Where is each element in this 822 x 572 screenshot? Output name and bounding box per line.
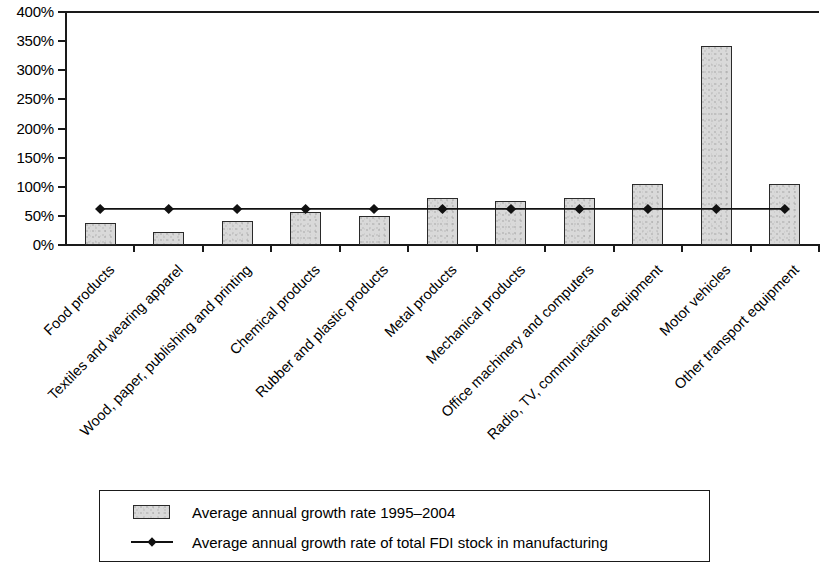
line-data-marker	[643, 204, 653, 214]
bar	[701, 46, 732, 245]
x-axis-tick-mark	[818, 244, 820, 252]
x-axis-category-label: Textiles and wearing apparel	[45, 262, 186, 403]
bar	[222, 221, 253, 245]
y-axis-tick-label: 50%	[0, 208, 54, 223]
fdi-growth-rate-chart: 0%50%100%150%200%250%300%350%400% Food p…	[0, 0, 822, 572]
bar	[564, 198, 595, 245]
y-axis-tick-label: 150%	[0, 150, 54, 165]
bar	[769, 184, 800, 245]
y-axis: 0%50%100%150%200%250%300%350%400%	[0, 0, 54, 250]
x-axis-tick-mark	[133, 244, 135, 252]
y-axis-tick-mark	[58, 157, 67, 159]
y-axis-tick-mark	[58, 186, 67, 188]
y-axis-tick-mark	[58, 98, 67, 100]
bar	[495, 201, 526, 245]
x-axis-tick-mark	[613, 244, 615, 252]
chart-legend: Average annual growth rate 1995–2004 Ave…	[99, 490, 710, 562]
line-marker-swatch-icon	[131, 535, 173, 549]
y-axis-tick-label: 200%	[0, 121, 54, 136]
line-data-marker	[780, 204, 790, 214]
y-axis-tick-label: 250%	[0, 91, 54, 106]
y-axis-tick-label: 400%	[0, 4, 54, 19]
y-axis-tick-label: 300%	[0, 62, 54, 77]
y-axis-tick-label: 100%	[0, 179, 54, 194]
line-data-marker	[232, 204, 242, 214]
bar	[290, 212, 321, 245]
x-axis-category-labels: Food productsTextiles and wearing appare…	[0, 250, 822, 390]
legend-item-bar-series: Average annual growth rate 1995–2004	[100, 499, 709, 525]
line-data-marker	[95, 204, 105, 214]
line-data-marker	[711, 204, 721, 214]
x-axis-tick-mark	[270, 244, 272, 252]
y-axis-tick-mark	[58, 128, 67, 130]
bar	[359, 216, 390, 245]
bar-swatch-icon	[133, 505, 170, 519]
x-axis-category-label: Other transport equipment	[672, 262, 802, 392]
bar	[427, 198, 458, 245]
y-axis-tick-label: 350%	[0, 33, 54, 48]
legend-label-bar-series: Average annual growth rate 1995–2004	[192, 504, 455, 521]
x-axis-tick-mark	[681, 244, 683, 252]
x-axis-category-label: Motor vehicles	[657, 262, 734, 339]
line-data-marker	[574, 204, 584, 214]
line-marker-glyph	[131, 535, 173, 549]
x-axis-line	[65, 244, 819, 246]
plot-top-border	[65, 11, 819, 13]
x-axis-category-label: Food products	[41, 262, 117, 338]
legend-item-line-series: Average annual growth rate of total FDI …	[100, 529, 709, 555]
line-data-marker	[164, 204, 174, 214]
line-data-marker	[369, 204, 379, 214]
y-axis-tick-mark	[58, 215, 67, 217]
bar	[632, 184, 663, 245]
y-axis-tick-mark	[58, 40, 67, 42]
x-axis-tick-mark	[544, 244, 546, 252]
y-axis-tick-mark	[58, 11, 67, 13]
x-axis-tick-mark	[476, 244, 478, 252]
x-axis-category-label: Rubber and plastic products	[253, 262, 391, 400]
x-axis-tick-mark	[407, 244, 409, 252]
line-data-marker	[437, 204, 447, 214]
y-axis-tick-mark	[58, 69, 67, 71]
line-data-marker	[506, 204, 516, 214]
bar	[85, 223, 116, 245]
legend-label-line-series: Average annual growth rate of total FDI …	[192, 534, 608, 551]
line-data-marker	[300, 204, 310, 214]
x-axis-tick-mark	[339, 244, 341, 252]
x-axis-tick-mark	[750, 244, 752, 252]
x-axis-tick-mark	[202, 244, 204, 252]
y-axis-tick-mark	[58, 244, 67, 246]
